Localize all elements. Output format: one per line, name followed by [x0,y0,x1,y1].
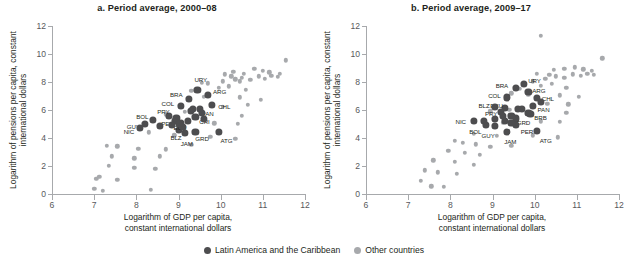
panel-b-point-other-12 [452,139,456,143]
panel-b-x-tick-label-10: 10 [524,200,546,210]
figure-container: a. Period average, 2000–08 Logarithm of … [0,0,628,262]
panel-a-point-other-22 [212,121,216,125]
panel-b-point-other-30 [558,93,562,97]
legend-swatch-lac-icon [204,247,211,254]
panel-b-point-other-37 [554,74,558,78]
panel-a-point-other-46 [252,66,256,70]
panel-a-point-other-34 [244,87,248,91]
panel-a-point-other-7 [132,166,136,170]
panel-b-point-other-53 [539,34,543,38]
panel-a-point-bra [185,95,192,102]
panel-b-point-atg [533,127,540,134]
panel-b-y-tick-label-8: 8 [334,77,360,87]
panel-b-y-tick-label-4: 4 [334,133,360,143]
panel-b-x-tick-label-9: 9 [482,200,504,210]
panel-b-point-kna [527,111,534,118]
panel-b-point-other-33 [549,82,553,86]
panel-a-point-label-arg: ARG [213,88,226,95]
panel-a-point-dom [184,117,191,124]
panel-b-point-other-42 [591,73,595,77]
panel-b-point-other-23 [558,120,562,124]
legend: Latin America and the Caribbean Other co… [0,245,628,255]
panel-b-x-axis-label-line2: constant international dollars [439,223,546,233]
panel-b-point-other-44 [562,66,566,70]
panel-a-point-ury [194,86,201,93]
panel-a-point-label-jam: JAM [181,140,193,147]
panel-a-point-other-26 [240,113,244,117]
panel-b-point-label-brb: BRB [534,114,546,121]
panel-a-point-other-51 [223,72,227,76]
panel-b-point-ury [521,81,528,88]
panel-a-point-other-12 [105,143,109,147]
panel-b-y-tick-label-2: 2 [334,161,360,171]
panel-a-point-other-1 [100,188,104,192]
panel-a-point-other-17 [147,130,151,134]
panel-b-point-label-guy: GUY [482,132,495,139]
panel-a-point-other-11 [157,154,161,158]
panel-b-point-label-per: PER [521,128,533,135]
panel-a-point-label-grd: GRD [195,135,208,142]
panel-a-point-other-8 [153,167,157,171]
panel-b-y-tick-label-6: 6 [334,105,360,115]
panel-b-x-tick-label-7: 7 [397,200,419,210]
panel-b: b. Period average, 2009–17 Logarithm of … [314,0,628,240]
panel-b-point-other-0 [419,178,423,182]
panel-a-point-other-42 [269,73,273,77]
panel-a-point-other-0 [92,187,96,191]
panel-b-point-other-26 [564,111,568,115]
panel-b-x-axis-label: Logarithm of GDP per capita, constant in… [354,212,628,233]
panel-b-point-other-28 [566,102,570,106]
panel-a-point-other-31 [259,97,263,101]
panel-a-point-other-4 [97,174,101,178]
panel-b-point-other-9 [446,148,450,152]
panel-b-point-other-6 [431,158,435,162]
panel-a-point-other-20 [233,136,237,140]
panel-b-point-nic [470,117,477,124]
panel-a-point-other-44 [231,69,235,73]
panel-b-point-other-13 [461,141,465,145]
panel-a-point-label-pry: PRY [157,108,169,115]
panel-a-x-tick-label-10: 10 [210,200,232,210]
panel-a-x-tick-label-8: 8 [125,200,147,210]
panel-a-point-label-atg: ATG [221,137,233,144]
panel-b-point-other-39 [570,72,574,76]
panel-a-y-tick-label-8: 8 [20,77,46,87]
panel-b-x-axis-label-line1: Logarithm of GDP per capita, [438,212,546,222]
panel-a: a. Period average, 2000–08 Logarithm of … [0,0,314,240]
panel-a-point-other-9 [110,154,114,158]
panel-a-point-other-54 [189,89,193,93]
panel-b-point-label-ury: URY [528,77,541,84]
panel-b-point-other-41 [585,71,589,75]
panel-b-point-other-48 [600,56,604,60]
panel-b-point-other-50 [547,73,551,77]
panel-a-point-other-40 [256,74,260,78]
panel-a-point-label-chl: CHL [218,103,230,110]
panel-b-point-gtm [491,116,498,123]
panel-a-point-other-2 [149,188,153,192]
panel-b-y-tick-label-12: 12 [334,21,360,31]
panel-b-point-label-jam: JAM [504,138,516,145]
panel-a-point-other-53 [237,79,241,83]
panel-b-point-other-31 [577,94,581,98]
panel-a-point-other-50 [284,58,288,62]
panel-a-point-other-15 [164,147,168,151]
panel-b-point-label-atg: ATG [540,137,552,144]
panel-a-point-hnd [156,123,163,130]
panel-a-plot-area: URYARGBRACHLCOLPANCRIPRYBOLPERGUYNICBLZJ… [52,26,305,194]
panel-a-point-other-33 [227,84,231,88]
panel-b-point-other-49 [535,71,539,75]
panel-b-point-other-14 [473,142,477,146]
panel-b-point-other-43 [551,68,555,72]
panel-a-x-axis-label: Logarithm of GDP per capita, constant in… [40,212,316,233]
panel-b-point-label-col: COL [488,92,500,99]
panel-b-x-tick-label-8: 8 [439,200,461,210]
panel-a-y-tick-label-6: 6 [20,105,46,115]
panel-a-y-tick-label-2: 2 [20,161,46,171]
panel-a-point-other-49 [277,71,281,75]
panel-b-point-bra [512,85,519,92]
panel-b-point-guy [491,123,498,130]
panel-b-title: b. Period average, 2009–17 [314,3,628,13]
panel-a-x-axis-label-line1: Logarithm of GDP per capita, [124,212,232,222]
panel-a-point-atg [215,128,222,135]
panel-a-x-tick-label-6: 6 [41,200,63,210]
